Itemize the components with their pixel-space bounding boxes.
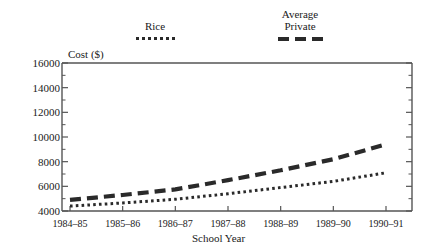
series-line-average-private bbox=[70, 144, 386, 200]
series-lines bbox=[70, 144, 386, 206]
chart-figure: Rice Average Private Cost ($) School Yea… bbox=[0, 0, 437, 252]
x-axis-ticks bbox=[70, 206, 386, 211]
y-axis-ticks bbox=[62, 63, 412, 211]
plot-area bbox=[0, 0, 437, 252]
series-line-rice bbox=[70, 173, 386, 206]
axis-lines bbox=[62, 63, 412, 211]
